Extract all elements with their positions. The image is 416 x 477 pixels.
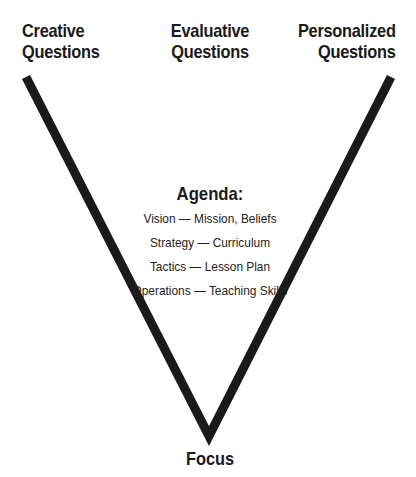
heading-line: Evaluative <box>170 20 249 41</box>
agenda-item-tactics: Tactics — Lesson Plan <box>120 255 300 279</box>
agenda-item-strategy: Strategy — Curriculum <box>120 231 300 255</box>
heading-line: Creative <box>22 20 100 41</box>
focus-label: Focus <box>167 448 253 470</box>
heading-line: Questions <box>170 41 249 62</box>
heading-personalized-questions: Personalized Questions <box>298 20 396 62</box>
heading-evaluative-questions: Evaluative Questions <box>170 20 249 62</box>
heading-line: Questions <box>298 41 396 62</box>
agenda-item-vision: Vision — Mission, Beliefs <box>120 207 300 231</box>
agenda-block: Agenda: Vision — Mission, Beliefs Strate… <box>108 183 312 303</box>
heading-creative-questions: Creative Questions <box>22 20 100 62</box>
heading-line: Questions <box>22 41 100 62</box>
agenda-title: Agenda: <box>120 183 300 205</box>
agenda-item-operations: Operations — Teaching Skills <box>120 279 300 303</box>
heading-line: Personalized <box>298 20 396 41</box>
